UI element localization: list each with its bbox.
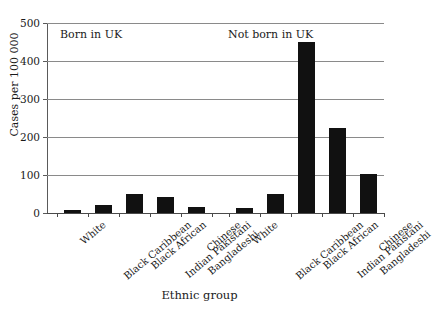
x-axis-title: Ethnic group bbox=[0, 288, 399, 302]
bar bbox=[126, 194, 143, 213]
y-axis-title: Cases per 100 000 bbox=[8, 25, 21, 145]
bar bbox=[267, 194, 284, 213]
x-label-line: White bbox=[77, 219, 107, 247]
x-tick-mark bbox=[229, 213, 230, 217]
x-tick-mark bbox=[212, 213, 213, 217]
x-label-line: Black Caribbean bbox=[293, 219, 365, 282]
x-tick-mark bbox=[119, 213, 120, 217]
x-tick-mark bbox=[181, 213, 182, 217]
bar bbox=[329, 128, 346, 214]
y-tick-label: 200 bbox=[0, 132, 40, 142]
y-tick-label: 100 bbox=[0, 170, 40, 180]
bar bbox=[360, 174, 377, 213]
x-tick-mark bbox=[57, 213, 58, 217]
x-axis-category-label: White bbox=[249, 219, 279, 247]
x-axis-category-label: White bbox=[77, 219, 107, 247]
x-tick-mark bbox=[322, 213, 323, 217]
y-tick-label: 300 bbox=[0, 94, 40, 104]
bar bbox=[157, 197, 174, 213]
x-label-line: White bbox=[249, 219, 279, 247]
bars-layer bbox=[47, 23, 384, 213]
x-tick-mark bbox=[150, 213, 151, 217]
x-tick-mark bbox=[260, 213, 261, 217]
x-axis-line bbox=[47, 213, 385, 214]
x-tick-mark bbox=[353, 213, 354, 217]
group-label-born-in-uk: Born in UK bbox=[60, 28, 122, 41]
bar bbox=[95, 205, 112, 213]
y-tick-label: 400 bbox=[0, 56, 40, 66]
group-label-not-born-in-uk: Not born in UK bbox=[228, 28, 313, 41]
x-tick-mark bbox=[384, 213, 385, 217]
y-tick-label: 0 bbox=[0, 208, 40, 218]
x-axis-category-label: Black Caribbean bbox=[293, 219, 365, 282]
bar bbox=[298, 42, 315, 213]
bar bbox=[236, 208, 253, 213]
x-tick-mark bbox=[88, 213, 89, 217]
x-tick-mark bbox=[291, 213, 292, 217]
y-tick-label: 500 bbox=[0, 18, 40, 28]
x-label-line: Black Caribbean bbox=[121, 219, 193, 282]
bar bbox=[64, 210, 81, 213]
plot-area bbox=[47, 23, 384, 213]
x-axis-category-label: Black Caribbean bbox=[121, 219, 193, 282]
bar bbox=[188, 207, 205, 213]
